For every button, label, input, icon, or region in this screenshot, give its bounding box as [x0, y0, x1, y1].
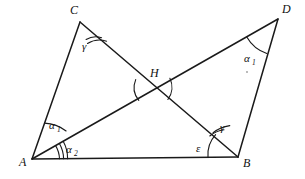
angle-sublabel-A-alpha2: 2: [74, 149, 78, 158]
angle-sublabel-D-alpha1: 1: [252, 58, 256, 67]
segment-BD: [238, 19, 278, 157]
geometry-canvas: A B C D H γ α 1 α 2 ε γ α 1: [0, 0, 305, 179]
vertex-label-C: C: [70, 3, 79, 17]
angle-arcs-B-epsilon: [208, 135, 216, 158]
angle-label-B-epsilon: ε: [196, 142, 201, 154]
angle-label-A-alpha1: α: [49, 119, 55, 131]
geometry-diagram: A B C D H γ α 1 α 2 ε γ α 1: [0, 0, 305, 179]
angle-label-A-alpha2: α: [66, 143, 72, 155]
vertex-label-B: B: [243, 156, 251, 170]
angle-label-D-alpha1: α: [244, 52, 250, 64]
angle-labels-group: γ α 1 α 2 ε γ α 1: [49, 40, 256, 158]
angle-arcs-A-alpha1: [45, 123, 67, 131]
segment-AB: [32, 157, 238, 159]
segment-AD: [32, 19, 278, 159]
angle-arc-H-left: [134, 80, 139, 101]
segments-group: [32, 19, 278, 159]
angle-label-B-gamma: γ: [220, 121, 225, 133]
vertex-label-A: A: [18, 155, 27, 169]
scan-speck: [246, 71, 248, 73]
angle-arc-B-epsilon: [208, 135, 216, 158]
angle-arc-D-alpha1: [247, 37, 267, 54]
angle-arc-A-alpha2-2: [59, 144, 63, 159]
angle-arcs-D-alpha1: [247, 37, 267, 54]
vertex-label-H: H: [149, 66, 160, 80]
angle-arc-A-alpha1: [45, 123, 67, 131]
vertex-label-D: D: [281, 2, 291, 16]
angle-sublabel-A-alpha1: 1: [57, 125, 61, 134]
segment-AC: [32, 22, 80, 159]
angle-label-C-gamma: γ: [82, 40, 87, 52]
angle-arc-A-alpha2-1: [56, 146, 60, 159]
